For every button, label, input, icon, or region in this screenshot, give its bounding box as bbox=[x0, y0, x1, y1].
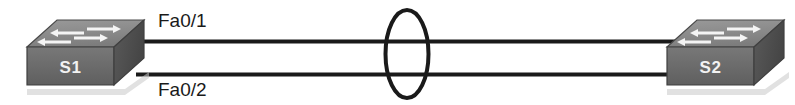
network-topology-diagram: S1 S2 Fa0/1 Fa0/2 bbox=[0, 0, 795, 105]
device-label-s2: S2 bbox=[700, 58, 722, 77]
device-label-s1: S1 bbox=[60, 58, 82, 77]
link-label-fa02: Fa0/2 bbox=[158, 79, 207, 100]
loop-ellipse bbox=[386, 10, 429, 98]
topology-canvas: S1 S2 Fa0/1 Fa0/2 bbox=[0, 0, 795, 105]
link-label-fa01: Fa0/1 bbox=[158, 10, 207, 31]
device-s1[interactable]: S1 bbox=[27, 20, 149, 95]
device-s2[interactable]: S2 bbox=[667, 20, 789, 95]
loop-ellipse-shape bbox=[386, 10, 429, 98]
